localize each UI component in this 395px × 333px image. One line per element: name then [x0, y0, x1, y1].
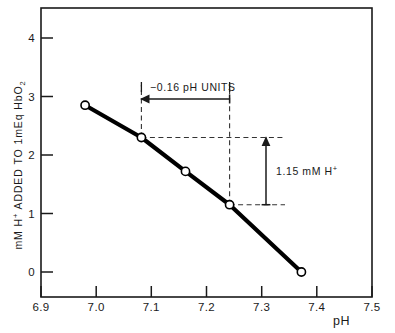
mm-h-label-sup: + — [333, 164, 338, 173]
ph-units-label: −0.16 pH UNITS — [150, 81, 236, 93]
data-point — [226, 201, 234, 209]
x-tick-label-3: 7.2 — [198, 301, 215, 313]
x-tick-label-0: 6.9 — [32, 301, 49, 313]
y-axis-title-sub: 2 — [18, 80, 27, 85]
chart-plot: 0 1 2 3 4 6.9 7.0 7.1 7.2 7.3 7.4 7.5 pH — [0, 0, 395, 333]
data-point — [81, 101, 89, 109]
y-axis-tick-labels: 0 1 2 3 4 — [28, 32, 35, 278]
x-axis-tick-labels: 6.9 7.0 7.1 7.2 7.3 7.4 7.5 — [32, 301, 380, 313]
y-tick-label-1: 1 — [28, 208, 35, 220]
mm-h-label-main: 1.15 mM H — [276, 165, 333, 177]
data-point — [137, 133, 145, 141]
x-tick-label-2: 7.1 — [143, 301, 160, 313]
y-tick-label-3: 3 — [28, 91, 35, 103]
mm-h-label: 1.15 mM H+ — [276, 164, 338, 177]
y-axis-title-seg1: mM H — [12, 218, 24, 250]
y-axis-title-seg2: ADDED TO 1mEq HbO — [12, 85, 24, 212]
data-point — [297, 268, 305, 276]
svg-text:mM H+ ADDED TO 1mEq HbO2: mM H+ ADDED TO 1mEq HbO2 — [11, 80, 27, 249]
x-tick-label-5: 7.4 — [308, 301, 325, 313]
x-tick-label-6: 7.5 — [363, 301, 380, 313]
figure-container: 0 1 2 3 4 6.9 7.0 7.1 7.2 7.3 7.4 7.5 pH — [0, 0, 395, 333]
y-tick-label-2: 2 — [28, 149, 35, 161]
plot-frame — [41, 8, 372, 297]
y-axis-title: mM H+ ADDED TO 1mEq HbO2 — [11, 80, 27, 249]
data-point — [181, 167, 189, 175]
x-axis-title: pH — [333, 314, 350, 328]
y-tick-label-0: 0 — [28, 266, 35, 278]
x-tick-label-1: 7.0 — [88, 301, 105, 313]
y-tick-label-4: 4 — [28, 32, 35, 44]
x-tick-label-4: 7.3 — [253, 301, 270, 313]
